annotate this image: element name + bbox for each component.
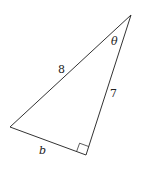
base-leg-label: b (39, 144, 46, 157)
angle-theta-label: θ (111, 35, 118, 48)
hypotenuse-label: 8 (58, 63, 65, 76)
vertical-leg-label: 7 (110, 87, 117, 100)
triangle-diagram: 8 7 b θ (0, 0, 141, 169)
